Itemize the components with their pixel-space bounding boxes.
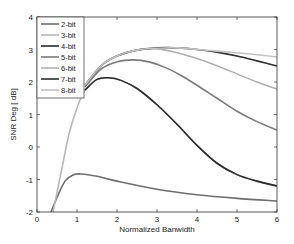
y-tick-label: 2 bbox=[29, 78, 34, 87]
x-tick-label: 1 bbox=[75, 215, 80, 224]
y-tick-label: -2 bbox=[26, 208, 34, 217]
snr-degradation-chart: 0123456-2-101234Normalized BanwidthSNR D… bbox=[0, 0, 294, 244]
legend: 2-bit3-bit4-bit5-bit6-bit7-bit8-bit bbox=[37, 17, 84, 98]
x-tick-label: 4 bbox=[195, 215, 200, 224]
x-tick-label: 5 bbox=[235, 215, 240, 224]
y-tick-label: 3 bbox=[29, 46, 34, 55]
x-tick-label: 0 bbox=[35, 215, 40, 224]
legend-label: 6-bit bbox=[61, 64, 77, 73]
y-tick-label: 1 bbox=[29, 111, 34, 120]
plot-area bbox=[51, 48, 277, 212]
legend-label: 4-bit bbox=[61, 42, 77, 51]
series-4-bit bbox=[85, 78, 277, 186]
series-2-bit bbox=[51, 174, 277, 212]
series-6-bit bbox=[85, 49, 277, 89]
legend-label: 8-bit bbox=[61, 86, 77, 95]
x-axis-label: Normalized Banwidth bbox=[119, 225, 195, 234]
legend-label: 2-bit bbox=[61, 20, 77, 29]
y-tick-label: -1 bbox=[26, 176, 34, 185]
y-tick-label: 4 bbox=[29, 13, 34, 22]
series-3-bit bbox=[53, 78, 277, 212]
series-5-bit bbox=[85, 60, 277, 130]
legend-label: 7-bit bbox=[61, 75, 77, 84]
legend-label: 5-bit bbox=[61, 53, 77, 62]
x-tick-label: 3 bbox=[155, 215, 160, 224]
x-tick-label: 2 bbox=[115, 215, 120, 224]
x-tick-label: 6 bbox=[275, 215, 280, 224]
y-axis-label: SNR Deg [ dB] bbox=[9, 88, 18, 140]
y-tick-label: 0 bbox=[29, 143, 34, 152]
legend-label: 3-bit bbox=[61, 31, 77, 40]
